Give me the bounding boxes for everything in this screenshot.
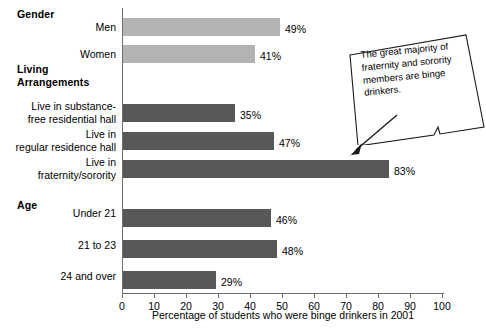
category-label-21-to-23: 21 to 23 [0, 239, 116, 252]
bar-value-substance-free-hall: 35% [240, 109, 261, 121]
bar-value-women: 41% [260, 50, 281, 62]
x-tick-60 [314, 293, 315, 298]
x-tick-80 [378, 293, 379, 298]
x-tick-20 [186, 293, 187, 298]
x-tick-100 [442, 293, 443, 298]
x-tick-30 [218, 293, 219, 298]
x-axis-line [122, 293, 444, 294]
bar-21-to-23 [123, 240, 277, 258]
x-tick-70 [346, 293, 347, 298]
category-label-substance-free-hall: Live in substance- free residential hall [0, 100, 116, 125]
x-tick-50 [282, 293, 283, 298]
bar-value-21-to-23: 48% [282, 245, 303, 257]
category-label-regular-residence-hall: Live in regular residence hall [0, 128, 116, 153]
bar-chart: Gender Living Arrangements Age Men Women… [0, 0, 486, 332]
group-header-gender: Gender [17, 8, 54, 21]
group-header-living-arrangements: Living Arrangements [17, 63, 89, 88]
x-tick-40 [250, 293, 251, 298]
callout-arrow-icon [330, 110, 440, 170]
category-label-fraternity-sorority: Live in fraternity/sorority [0, 156, 116, 181]
x-tick-10 [154, 293, 155, 298]
category-label-women: Women [0, 48, 116, 61]
bar-24-and-over [123, 271, 216, 289]
bar-value-regular-residence-hall: 47% [279, 137, 300, 149]
bar-regular-residence-hall [123, 132, 274, 150]
category-label-men: Men [0, 21, 116, 34]
bar-value-24-and-over: 29% [221, 276, 242, 288]
bar-value-under-21: 46% [276, 214, 297, 226]
x-tick-90 [410, 293, 411, 298]
callout-text: The great majority of fraternity and sor… [360, 38, 476, 100]
category-label-24-and-over: 24 and over [0, 270, 116, 283]
x-tick-0 [122, 293, 123, 298]
bar-substance-free-hall [123, 104, 235, 122]
bar-women [123, 45, 255, 63]
bar-men [123, 18, 280, 36]
bar-value-men: 49% [285, 23, 306, 35]
bar-under-21 [123, 209, 271, 227]
x-axis-label: Percentage of students who were binge dr… [122, 309, 444, 321]
category-label-under-21: Under 21 [0, 207, 116, 220]
